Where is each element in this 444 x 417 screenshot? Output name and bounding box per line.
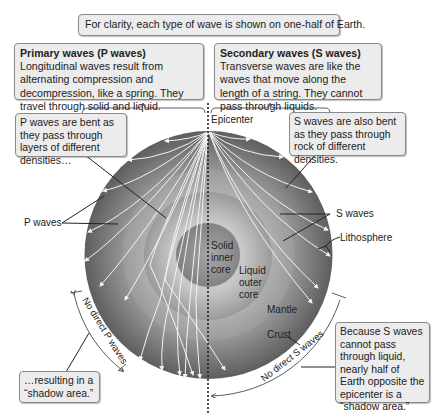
outer-core-label: Liquid outer core — [239, 265, 269, 301]
s-bent-callout: S waves are also bent as they pass throu… — [289, 112, 406, 156]
crust-label: Crust — [267, 329, 291, 341]
mantle-label: Mantle — [267, 304, 297, 316]
epicenter-label: Epicenter — [211, 114, 253, 126]
p-wave-definition-box: Primary waves (P waves) Longitudinal wav… — [14, 43, 204, 100]
p-bent-callout: P waves are bent as they pass through la… — [15, 113, 127, 157]
lithosphere-label: Lithosphere — [340, 232, 392, 244]
earth-seismic-waves-diagram: No direct P waves No direct S waves For … — [0, 0, 444, 417]
s-wave-title: Secondary waves (S waves) — [220, 47, 376, 60]
inner-core-label: Solid inner core — [211, 240, 239, 276]
s-wave-definition-box: Secondary waves (S waves) Transverse wav… — [214, 43, 382, 100]
p-waves-label: P waves — [24, 217, 62, 229]
s-wave-body: Transverse waves are like the waves that… — [220, 60, 362, 112]
header-note-text: For clarity, each type of wave is shown … — [85, 18, 365, 30]
header-note: For clarity, each type of wave is shown … — [78, 14, 340, 36]
p-wave-body: Longitudinal waves result from alternati… — [20, 60, 184, 112]
p-wave-title: Primary waves (P waves) — [20, 47, 198, 60]
s-shadow-callout: Because S waves cannot pass through liqu… — [335, 322, 430, 403]
s-waves-label: S waves — [336, 208, 374, 220]
p-shadow-callout: …resulting in a “shadow area.” — [19, 371, 100, 403]
